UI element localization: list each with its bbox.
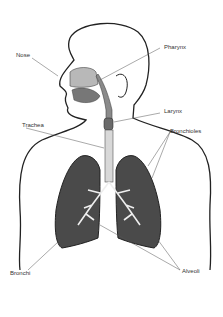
label-alveoli: Alveoli [182, 268, 200, 274]
ear-outline [116, 74, 127, 97]
respiratory-diagram: Nose Pharynx Larynx Trachea Bronchioles … [0, 0, 223, 317]
label-pharynx: Pharynx [164, 44, 186, 50]
label-trachea: Trachea [22, 122, 44, 128]
trachea-shape [105, 130, 113, 182]
nasal-cavity [70, 68, 98, 88]
mouth-cavity [72, 88, 100, 103]
label-bronchioles: Bronchioles [170, 128, 201, 134]
label-nose: Nose [16, 52, 30, 58]
larynx-shape [104, 118, 113, 130]
label-larynx: Larynx [164, 108, 182, 114]
left-lung [55, 156, 100, 248]
label-bronchi: Bronchi [10, 270, 30, 276]
